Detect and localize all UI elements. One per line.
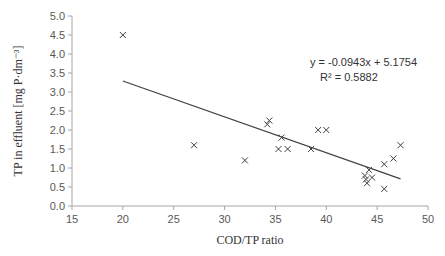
y-tick-label: 0.0 <box>50 200 65 212</box>
x-tick-label: 20 <box>117 213 129 225</box>
r-squared-label: R² = 0.5882 <box>320 71 378 83</box>
x-axis-title: COD/TP ratio <box>216 233 283 247</box>
x-marker-icon <box>381 186 387 192</box>
x-tick-label: 35 <box>269 213 281 225</box>
y-tick-label: 0.5 <box>50 181 65 193</box>
y-axis-ticks: 0.00.51.01.52.02.53.03.54.04.55.0 <box>50 10 72 212</box>
x-marker-icon <box>381 161 387 167</box>
x-tick-label: 25 <box>168 213 180 225</box>
x-tick-label: 30 <box>218 213 230 225</box>
x-axis-ticks: 1520253035404550 <box>66 206 434 225</box>
x-marker-icon <box>390 156 396 162</box>
x-marker-icon <box>369 175 375 181</box>
x-marker-icon <box>398 142 404 148</box>
x-marker-icon <box>242 157 248 163</box>
y-tick-label: 2.0 <box>50 124 65 136</box>
y-tick-label: 1.5 <box>50 143 65 155</box>
x-marker-icon <box>323 127 329 133</box>
x-marker-icon <box>191 142 197 148</box>
x-tick-label: 45 <box>371 213 383 225</box>
scatter-chart: 0.00.51.01.52.02.53.03.54.04.55.0 152025… <box>0 0 445 256</box>
x-tick-label: 50 <box>422 213 434 225</box>
x-marker-icon <box>315 127 321 133</box>
x-marker-icon <box>275 146 281 152</box>
x-tick-label: 15 <box>66 213 78 225</box>
y-tick-label: 4.5 <box>50 29 65 41</box>
y-tick-label: 3.5 <box>50 67 65 79</box>
y-tick-label: 4.0 <box>50 48 65 60</box>
y-axis-title: TP in effluent [mg P·dm⁻³] <box>11 46 25 177</box>
y-tick-label: 1.0 <box>50 162 65 174</box>
trendline <box>123 81 401 179</box>
y-tick-label: 3.0 <box>50 86 65 98</box>
y-tick-label: 5.0 <box>50 10 65 22</box>
y-tick-label: 2.5 <box>50 105 65 117</box>
x-marker-icon <box>285 146 291 152</box>
trendline-equation: y = -0.0943x + 5.1754 <box>310 56 417 68</box>
x-tick-label: 40 <box>320 213 332 225</box>
x-marker-icon <box>120 32 126 38</box>
